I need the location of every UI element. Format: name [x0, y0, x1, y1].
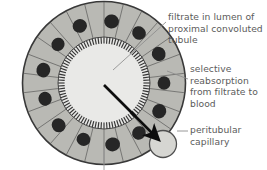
- label-selective-reabsorption: selective reabsorption from filtrate to …: [190, 63, 267, 109]
- label-filtrate-in-lumen: filtrate in lumen of proximal convoluted…: [168, 11, 267, 46]
- label-peritubular-capillary: peritubular capillary: [190, 124, 267, 147]
